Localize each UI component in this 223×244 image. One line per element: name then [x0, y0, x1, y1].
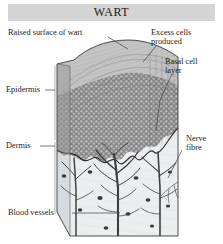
label-nerve-fibre: Nervefibre	[186, 134, 206, 153]
label-dermis: Dermis	[6, 141, 30, 150]
wart-figure: WART	[0, 0, 223, 244]
label-basal-layer: Basal celllayer	[165, 57, 197, 76]
label-epidermis: Epidermis	[6, 85, 40, 94]
label-excess-cells: Excess cellsproduced	[151, 28, 191, 47]
epidermis-side-face	[57, 64, 70, 156]
label-blood-vessels: Blood vessels	[8, 208, 54, 217]
label-raised-surface: Raised surface of wart	[8, 28, 82, 37]
